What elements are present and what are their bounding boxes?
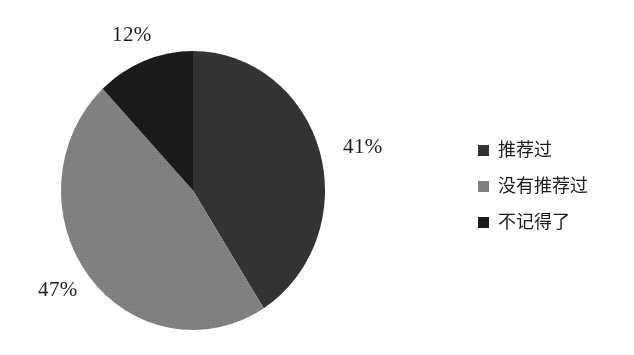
legend-label-dont-remember: 不记得了: [498, 213, 570, 232]
legend-swatch-recommended: [478, 145, 489, 156]
pie-value-label-not-recommended: 47%: [38, 277, 78, 302]
legend-label-recommended: 推荐过: [498, 141, 552, 160]
pie-chart-figure: 12% 41% 47% 推荐过 没有推荐过 不记得了: [0, 0, 634, 355]
legend-label-not-recommended: 没有推荐过: [498, 177, 588, 196]
legend-item-recommended[interactable]: 推荐过: [478, 141, 588, 160]
legend-swatch-not-recommended: [478, 181, 489, 192]
chart-legend: 推荐过 没有推荐过 不记得了: [478, 141, 588, 232]
legend-item-dont-remember[interactable]: 不记得了: [478, 213, 588, 232]
pie-value-label-dont-remember: 12%: [112, 22, 152, 47]
pie-chart-plot-area: [61, 51, 325, 330]
legend-swatch-dont-remember: [478, 217, 489, 228]
legend-item-not-recommended[interactable]: 没有推荐过: [478, 177, 588, 196]
pie-slices: [61, 51, 325, 330]
pie-value-label-recommended: 41%: [343, 134, 383, 159]
pie-chart-svg: [61, 51, 325, 330]
